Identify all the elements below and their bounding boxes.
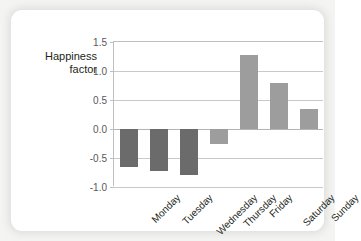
y-tick-label: 1.5 — [93, 37, 107, 48]
y-tick-mark — [110, 187, 114, 188]
y-tick-label: 0.5 — [93, 95, 107, 106]
y-tick-mark — [110, 158, 114, 159]
y-tick-mark — [110, 129, 114, 130]
bar-friday — [240, 55, 258, 129]
x-tick-label-tuesday: Tuesday — [180, 192, 215, 227]
plot-area: 1.51.00.50.0-0.5-1.0MondayTuesdayWednesd… — [113, 41, 323, 186]
y-axis-title: Happiness factor — [25, 50, 97, 76]
x-tick-label-monday: Monday — [149, 192, 182, 225]
gridline — [114, 187, 323, 188]
bar-monday — [120, 129, 138, 167]
y-tick-mark — [110, 71, 114, 72]
bar-wednesday — [180, 129, 198, 175]
gridline — [114, 158, 323, 159]
y-tick-label: 0.0 — [93, 124, 107, 135]
x-tick-label-saturday: Saturday — [301, 192, 337, 228]
y-tick-label: 1.0 — [93, 66, 107, 77]
bar-thursday — [210, 129, 228, 144]
bar-tuesday — [150, 129, 168, 171]
gridline — [114, 71, 323, 72]
y-tick-label: -0.5 — [90, 153, 107, 164]
y-tick-mark — [110, 100, 114, 101]
y-tick-label: -1.0 — [90, 182, 107, 193]
bar-saturday — [270, 83, 288, 129]
y-tick-mark — [110, 42, 114, 43]
chart-card: Happiness factor 1.51.00.50.0-0.5-1.0Mon… — [11, 10, 324, 231]
gridline — [114, 100, 323, 101]
bar-sunday — [300, 109, 318, 129]
